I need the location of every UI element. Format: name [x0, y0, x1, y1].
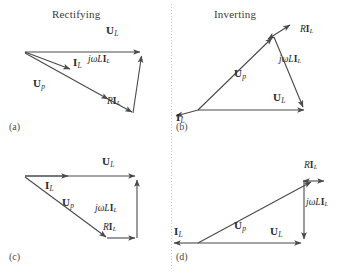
- panel-c-vectors: [25, 176, 137, 238]
- label-c-UL: UL: [102, 156, 114, 168]
- label-a-jwLIL: jωLIL: [88, 55, 110, 65]
- panel-label-c: (c): [9, 251, 20, 262]
- label-c-Up: Up: [62, 197, 74, 209]
- vector-d-Up: [198, 182, 311, 243]
- column-heading-rectifying: Rectifying: [52, 8, 100, 20]
- label-d-RIL: RIL: [304, 161, 317, 171]
- panel-label-d: (d): [176, 251, 188, 262]
- label-c-RIL: RIL: [103, 223, 116, 233]
- label-d-IL: IL: [174, 226, 183, 238]
- label-c-IL: IL: [45, 180, 54, 192]
- label-d-UL: UL: [270, 226, 282, 238]
- label-a-RIL: RIL: [107, 97, 120, 107]
- label-b-UL: UL: [273, 92, 285, 104]
- vector-a-jwLIL: [133, 56, 142, 113]
- panel-d-vectors: [174, 181, 324, 243]
- caption-strip: [12, 265, 322, 272]
- vector-a-IL: [25, 52, 70, 69]
- phasor-figure: Rectifying Inverting (a) (b) (c) (d) UL …: [0, 0, 343, 274]
- label-b-jwLIL: jωLIL: [279, 55, 301, 65]
- label-a-IL: IL: [73, 57, 82, 69]
- vector-b-RIL: [268, 25, 290, 39]
- label-b-RIL: RIL: [300, 25, 313, 35]
- label-a-UL: UL: [106, 25, 118, 37]
- label-d-Up: Up: [234, 220, 246, 232]
- label-a-Up: Up: [33, 78, 45, 90]
- label-b-Up: Up: [234, 68, 246, 80]
- label-d-jwLIL: jωLIL: [306, 198, 328, 208]
- label-c-jwLIL: jωLIL: [95, 204, 117, 214]
- column-divider: [171, 4, 172, 270]
- panel-label-a: (a): [9, 121, 20, 132]
- column-heading-inverting: Inverting: [214, 8, 256, 20]
- label-b-IL: IL: [176, 112, 185, 124]
